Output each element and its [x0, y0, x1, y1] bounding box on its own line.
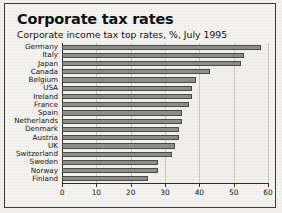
bar	[62, 69, 210, 74]
x-tick	[165, 183, 166, 187]
x-tick	[96, 183, 97, 187]
x-tick-label: 0	[60, 188, 65, 197]
bar	[62, 102, 189, 107]
chart-figure: Corporate tax rates Corporate income tax…	[0, 0, 282, 213]
x-tick-label: 50	[229, 188, 238, 197]
bar	[62, 53, 244, 58]
bar	[62, 119, 182, 124]
bar	[62, 127, 179, 132]
bar	[62, 176, 148, 181]
plot-area: 0102030405060	[62, 43, 268, 183]
category-label: Finland	[32, 175, 58, 183]
x-gridline	[268, 43, 269, 183]
bar	[62, 77, 196, 82]
bar	[62, 168, 158, 173]
x-tick-label: 20	[126, 188, 135, 197]
bar	[62, 45, 261, 50]
bar	[62, 160, 158, 165]
x-tick	[62, 183, 63, 187]
chart-title: Corporate tax rates	[17, 11, 174, 27]
x-tick-label: 10	[92, 188, 101, 197]
chart-subtitle: Corporate income tax top rates, %, July …	[17, 29, 227, 40]
bar	[62, 152, 172, 157]
bar	[62, 143, 175, 148]
x-tick-label: 30	[160, 188, 169, 197]
bar	[62, 110, 182, 115]
x-tick	[234, 183, 235, 187]
bar	[62, 94, 192, 99]
chart-frame: Corporate tax rates Corporate income tax…	[4, 3, 276, 208]
bar	[62, 86, 192, 91]
category-axis-labels: GermanyItalyJapanCanadaBelgiumUSAIreland…	[5, 43, 60, 183]
x-tick	[131, 183, 132, 187]
x-tick	[268, 183, 269, 187]
x-tick-label: 40	[195, 188, 204, 197]
x-tick	[199, 183, 200, 187]
bar	[62, 61, 241, 66]
bar	[62, 135, 179, 140]
x-tick-label: 60	[263, 188, 272, 197]
